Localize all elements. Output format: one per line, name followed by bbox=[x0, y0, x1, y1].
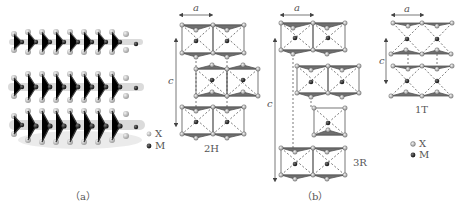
legend-b-x-icon bbox=[411, 142, 416, 147]
caption-a: （a） bbox=[70, 188, 96, 203]
structure-2h-x-atoms bbox=[180, 23, 260, 140]
lattice-a-1t: a bbox=[404, 3, 410, 14]
lattice-a-3r: a bbox=[294, 2, 300, 13]
structure-3r-m-atoms bbox=[293, 36, 345, 167]
panel-a-layers bbox=[11, 29, 142, 149]
legend-m-label: M bbox=[155, 140, 165, 151]
structure-1t-x-atoms bbox=[389, 21, 454, 98]
lattice-a-2h: a bbox=[193, 2, 199, 13]
legend-m-icon bbox=[147, 144, 152, 149]
structure-1t bbox=[386, 15, 452, 96]
legend-b-x-label: X bbox=[419, 138, 426, 149]
layer-3 bbox=[11, 108, 142, 149]
layer-2 bbox=[11, 71, 140, 103]
caption-b: （b） bbox=[302, 188, 328, 203]
legend-b-m-icon bbox=[411, 153, 416, 158]
structure-1t-m-atoms bbox=[405, 37, 440, 84]
legend-x-label: X bbox=[155, 128, 162, 139]
lattice-c-3r: c bbox=[267, 98, 273, 109]
legend-b-m-label: M bbox=[419, 149, 429, 160]
polytype-3r-label: 3R bbox=[353, 157, 367, 168]
lattice-c-1t: c bbox=[379, 55, 385, 66]
structure-3r-x-atoms bbox=[279, 21, 361, 181]
structure-2h bbox=[176, 15, 258, 138]
layer-1 bbox=[11, 29, 140, 55]
structure-3r bbox=[275, 15, 359, 180]
legend-x-icon bbox=[147, 132, 152, 137]
lattice-c-2h: c bbox=[168, 75, 174, 86]
figure-canvas bbox=[0, 0, 463, 209]
structure-2h-m-atoms bbox=[194, 39, 246, 125]
polytype-1t-label: 1T bbox=[415, 104, 428, 115]
polytype-2h-label: 2H bbox=[204, 143, 219, 154]
